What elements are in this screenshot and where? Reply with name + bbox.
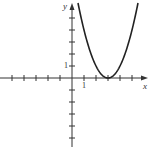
x-axis-label: x <box>143 82 147 91</box>
axes <box>0 3 148 147</box>
x-axis-arrow-icon <box>141 76 148 81</box>
y-tick-label-1: 1 <box>64 62 68 70</box>
parabola-curve <box>78 3 138 78</box>
y-axis-label: y <box>63 2 67 11</box>
x-tick-label-1: 1 <box>82 82 86 90</box>
graph-canvas <box>0 0 150 153</box>
y-axis-arrow-icon <box>70 3 75 10</box>
